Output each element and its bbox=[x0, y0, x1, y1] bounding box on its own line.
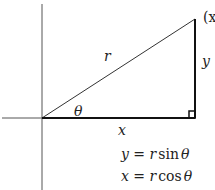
label-r: r bbox=[104, 48, 112, 64]
equation-y: y = rsinθ bbox=[120, 146, 190, 162]
label-theta: θ bbox=[74, 103, 83, 119]
label-y: y bbox=[201, 53, 211, 69]
label-point: (x bbox=[203, 9, 215, 25]
label-x: x bbox=[118, 122, 126, 138]
polar-triangle-diagram: r y x θ (x y = rsinθ x = rcosθ bbox=[0, 0, 215, 190]
equation-x: x = rcosθ bbox=[121, 168, 193, 184]
hypotenuse-r bbox=[42, 19, 195, 118]
